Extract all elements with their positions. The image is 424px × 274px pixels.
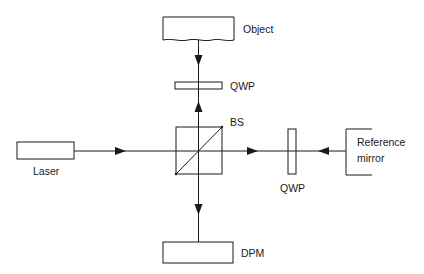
dpm-box <box>163 242 233 263</box>
laser-box <box>17 142 74 159</box>
reference-mirror-label-line1: Reference <box>357 136 405 148</box>
object-box <box>163 17 234 41</box>
reference-mirror-label-line2: mirror <box>357 152 384 164</box>
arrow-left-icon <box>318 147 329 155</box>
arrow-down-icon <box>195 204 203 215</box>
dpm-label: DPM <box>241 247 264 259</box>
laser-label: Laser <box>33 165 59 177</box>
bs-corner-dot <box>221 126 223 128</box>
arrow-right-icon <box>247 147 258 155</box>
arrow-down-icon <box>195 55 203 66</box>
arrow-up-icon <box>195 101 203 112</box>
arrow-right-icon <box>115 147 126 155</box>
object-label: Object <box>243 23 273 35</box>
qwp-top-label: QWP <box>230 80 255 92</box>
qwp-right-label: QWP <box>280 182 305 194</box>
bs-corner-dot <box>175 173 177 175</box>
beam-splitter-label: BS <box>230 116 244 128</box>
